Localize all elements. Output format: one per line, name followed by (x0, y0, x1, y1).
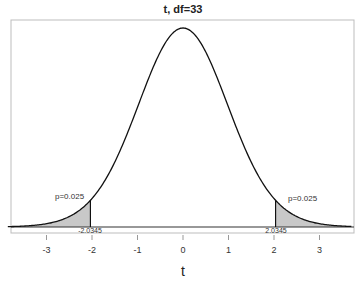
left-critical-value-label: -2.0345 (78, 227, 102, 234)
right-critical-value-label: 2.0345 (265, 227, 287, 234)
x-tick-label: 3 (317, 245, 322, 255)
x-tick-label: 1 (226, 245, 231, 255)
shaded-tail-regions (8, 200, 352, 227)
chart-title: t, df=33 (164, 3, 203, 15)
x-tick-label: -3 (42, 245, 50, 255)
critical-value-lines (90, 200, 275, 227)
left-tail-probability-label: p=0.025 (55, 192, 85, 201)
x-tick-label: 2 (271, 245, 276, 255)
t-distribution-chart: t, df=33 p=0.025 p=0.025 -2.0345 2.0345 … (0, 0, 363, 287)
x-tick-label: -2 (88, 245, 96, 255)
x-axis-ticks: -3-2-10123 (42, 235, 322, 255)
x-axis-label: t (181, 263, 185, 279)
x-tick-label: 0 (180, 245, 185, 255)
right-tail-probability-label: p=0.025 (288, 194, 318, 203)
x-tick-label: -1 (133, 245, 141, 255)
